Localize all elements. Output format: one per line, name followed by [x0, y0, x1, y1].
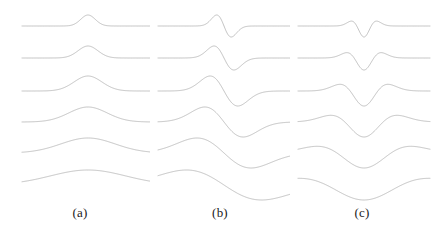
wavelet-trace	[158, 46, 290, 70]
wavelet-trace	[298, 178, 430, 200]
wavelet-trace	[298, 115, 430, 137]
wavelet-trace	[22, 138, 150, 152]
panel-b: (b)	[150, 0, 290, 231]
wavelet-trace	[158, 138, 290, 168]
panel-b-plot	[150, 0, 290, 231]
wavelet-trace	[298, 146, 430, 168]
wavelet-trace	[298, 53, 430, 70]
panel-a-plot	[10, 0, 150, 231]
wavelet-trace	[22, 46, 150, 58]
wavelet-trace	[22, 107, 150, 122]
wavelet-figure: (a) (b) (c)	[0, 0, 434, 231]
wavelet-trace	[298, 21, 430, 37]
wavelet-trace	[298, 84, 430, 106]
panel-c-svg	[290, 0, 434, 231]
wavelet-trace	[22, 170, 150, 182]
panel-c: (c)	[290, 0, 434, 231]
panel-a-svg	[10, 0, 150, 231]
panel-a: (a)	[10, 0, 150, 231]
wavelet-trace	[158, 107, 290, 137]
panel-b-label: (b)	[150, 205, 290, 221]
panel-c-label: (c)	[290, 205, 434, 221]
panel-a-label: (a)	[10, 205, 150, 221]
wavelet-trace	[158, 15, 290, 37]
wavelet-trace	[158, 76, 290, 106]
wavelet-trace	[22, 15, 150, 26]
wavelet-trace	[22, 76, 150, 91]
panel-c-plot	[290, 0, 434, 231]
wavelet-trace	[158, 170, 290, 200]
panel-b-svg	[150, 0, 290, 231]
